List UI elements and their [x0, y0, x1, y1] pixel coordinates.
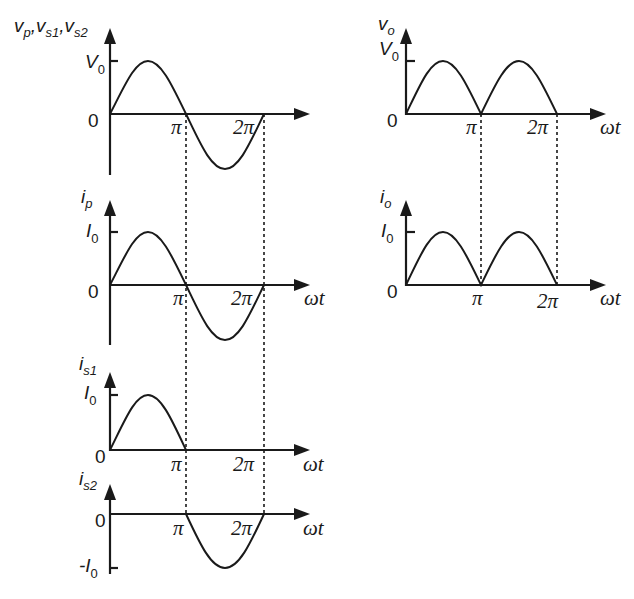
- zero-label: 0: [88, 281, 99, 302]
- tick-pi: π: [171, 452, 182, 476]
- is1-waveform: [110, 395, 186, 450]
- y-axis-arrow-icon: [104, 484, 116, 500]
- y-axis-label: io: [380, 186, 391, 211]
- neg-peak-label: -I0: [79, 555, 98, 581]
- y-axis-arrow-icon: [104, 28, 116, 44]
- tick-2pi: 2π: [233, 452, 255, 476]
- x-axis-label: ωt: [600, 115, 622, 139]
- y-axis-label: ip: [81, 186, 92, 211]
- y-axis-arrow-icon: [104, 372, 116, 388]
- peak-label: I0: [84, 382, 97, 408]
- tick-2pi: 2π: [231, 286, 253, 310]
- tick-pi: π: [173, 516, 184, 540]
- peak-label: V0: [85, 51, 105, 77]
- zero-label: 0: [387, 110, 398, 131]
- y-axis-label: is2: [79, 468, 98, 493]
- is2-waveform: [186, 514, 264, 568]
- y-axis-label: vo: [378, 13, 395, 38]
- tick-2pi: 2π: [231, 516, 253, 540]
- tick-pi: π: [173, 286, 184, 310]
- x-axis-label: ωt: [303, 516, 325, 540]
- tick-2pi: 2π: [233, 115, 255, 139]
- tick-pi: π: [472, 286, 483, 310]
- panel-vo: vo V0 0 π 2π ωt: [378, 13, 622, 139]
- y-axis-arrow-icon: [400, 28, 412, 44]
- x-axis-label: ωt: [600, 286, 622, 310]
- panel-io: io I0 0 π 2π ωt: [380, 186, 622, 313]
- pi-guide-lines-right: [481, 114, 557, 285]
- y-axis-label: is1: [79, 353, 97, 378]
- tick-pi: π: [466, 115, 477, 139]
- x-axis-label: ωt: [303, 452, 325, 476]
- zero-label: 0: [387, 281, 398, 302]
- panel-vp: vp,vs1,vs2 V0 0 π 2π: [14, 15, 310, 175]
- x-axis-arrow-icon: [294, 108, 310, 120]
- y-axis-label: vp,vs1,vs2: [14, 15, 89, 40]
- panel-is1: is1 I0 0 π 2π ωt: [79, 353, 325, 476]
- vo-waveform: [406, 61, 557, 114]
- rectifier-waveforms-diagram: vp,vs1,vs2 V0 0 π 2π ip I0 0 π 2π ωt is1…: [0, 0, 634, 599]
- peak-label: V0: [379, 38, 399, 64]
- x-axis-label: ωt: [304, 286, 326, 310]
- zero-label: 0: [95, 446, 106, 467]
- panel-is2: is2 0 -I0 π 2π ωt: [79, 468, 325, 581]
- y-axis-arrow-icon: [400, 200, 412, 216]
- zero-label: 0: [95, 510, 106, 531]
- zero-label: 0: [88, 110, 99, 131]
- tick-pi: π: [171, 115, 182, 139]
- peak-label: I0: [86, 220, 99, 246]
- y-axis-arrow-icon: [104, 200, 116, 216]
- tick-2pi: 2π: [537, 289, 559, 313]
- tick-2pi: 2π: [527, 115, 549, 139]
- peak-label: I0: [381, 220, 394, 246]
- panel-ip: ip I0 0 π 2π ωt: [81, 186, 326, 345]
